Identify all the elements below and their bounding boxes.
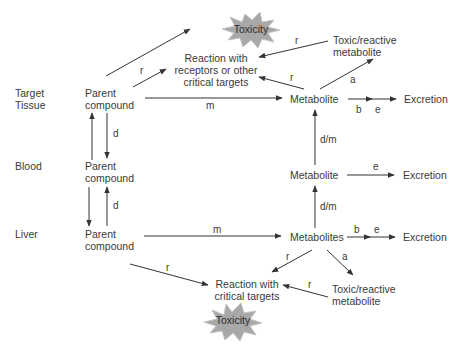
node-text: Reaction with [208,278,286,290]
parent-compound-blood: Parent compound [85,160,134,184]
compartment-label-line: Target [15,87,46,99]
edge-label-r: r [308,279,311,291]
compartment-label-liver: Liver [15,228,38,240]
parent-compound-target: Parent compound [85,87,134,111]
arrow-toxic-bottom-to-reaction-bottom [283,285,328,297]
node-text: compound [85,99,134,111]
edge-label-a: a [350,74,356,86]
excretion-target: Excretion [404,93,448,105]
edge-label-a: a [342,251,348,263]
node-text: metabolite [333,46,397,58]
node-text: receptors or other [166,64,266,76]
node-text: Reaction with [166,52,266,64]
node-text: Parent [85,87,134,99]
toxicity-label-bottom: Toxicity [210,314,256,326]
edge-label-b: b [356,104,362,116]
arrow-parent-to-reaction-top [133,69,166,87]
arrow-metabolites-to-reaction-bottom [272,250,312,272]
edge-label-dm: d/m [320,201,337,213]
toxic-metabolite-bottom: Toxic/reactive metabolite [332,283,396,307]
node-text: Parent [85,160,134,172]
edge-label-e: e [373,161,379,173]
excretion-blood: Excretion [403,169,447,181]
edge-label-m: m [213,224,221,236]
compartment-label-line: Tissue [15,99,46,111]
node-text: critical targets [166,76,266,88]
edge-label-r: r [295,35,298,47]
node-text: Parent [85,228,134,240]
edge-label-e: e [374,224,380,236]
edge-label-d: d [113,200,119,212]
edge-label-dm: d/m [320,134,337,146]
node-text: metabolite [332,295,396,307]
compartment-label-blood: Blood [15,160,42,172]
edge-label-r: r [286,251,289,263]
node-text: critical targets [208,290,286,302]
compartment-label-target: Target Tissue [15,87,46,111]
node-text: Toxic/reactive [332,283,396,295]
edge-label-r: r [290,72,293,84]
toxicity-label-top: Toxicity [229,23,273,35]
edge-label-r: r [166,262,169,274]
arrow-metabolite-to-toxic-top [320,59,373,89]
reaction-bottom: Reaction with critical targets [208,278,286,302]
excretion-liver: Excretion [403,231,447,243]
edge-label-e: e [375,104,381,116]
toxic-metabolite-top: Toxic/reactive metabolite [333,34,397,58]
reaction-top: Reaction with receptors or other critica… [166,52,266,88]
metabolite-blood: Metabolite [290,169,338,181]
node-text: compound [85,172,134,184]
arrow-metabolites-to-toxic-bottom [327,250,353,275]
metabolite-target: Metabolite [290,93,338,105]
parent-compound-liver: Parent compound [85,228,134,252]
edge-label-r: r [140,65,143,77]
node-text: Toxic/reactive [333,34,397,46]
node-text: compound [85,240,134,252]
arrow-toxic-to-reaction-top [259,41,328,57]
edge-label-m: m [206,100,214,112]
edge-label-b: b [354,224,360,236]
metabolites-liver: Metabolites [290,231,344,243]
edge-label-d: d [113,128,119,140]
